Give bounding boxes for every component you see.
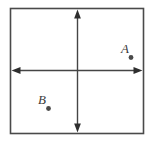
arrow-up-icon: [74, 10, 81, 19]
arrow-right-icon: [134, 67, 143, 74]
point-a-dot: [129, 55, 134, 60]
point-b-dot: [46, 106, 51, 111]
point-a-label: A: [120, 41, 129, 56]
diagram-canvas: A B: [0, 0, 155, 142]
point-b-label: B: [38, 92, 46, 107]
arrow-down-icon: [74, 124, 81, 133]
arrow-left-icon: [12, 67, 21, 74]
axes-square-figure: A B: [0, 0, 155, 142]
